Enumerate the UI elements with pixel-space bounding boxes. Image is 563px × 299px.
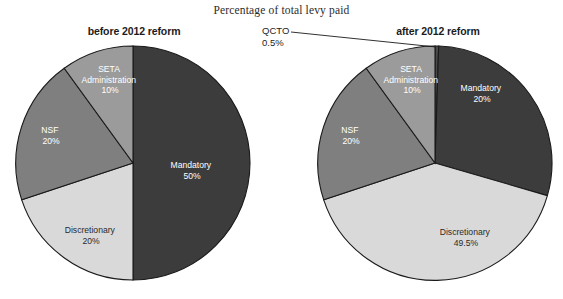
pie-label-discretionary-before-name: Discretionary <box>65 225 116 235</box>
pie-label-seta-before-line1: SETA <box>98 64 120 74</box>
pie-label-nsf-before: NSF 20% <box>41 125 61 146</box>
pie-label-mandatory-after-value: 20% <box>473 94 491 104</box>
pie-charts-svg: Mandatory 50% Discretionary 20% NSF 20% … <box>0 0 563 299</box>
pie-label-discretionary-after-name: Discretionary <box>440 227 491 237</box>
pie-label-seta-after-value: 10% <box>403 85 421 95</box>
pie-label-mandatory-before-value: 50% <box>183 171 201 181</box>
pie-label-discretionary-before-value: 20% <box>82 236 100 246</box>
pie-label-seta-after-line2: Administration <box>384 75 439 85</box>
pie-label-seta-before-line2: Administration <box>82 75 137 85</box>
pie-label-mandatory-after-name: Mandatory <box>461 83 502 93</box>
pie-label-discretionary-after-value: 49.5% <box>454 238 479 248</box>
pie-label-seta-before-value: 10% <box>101 85 119 95</box>
pie-label-nsf-after: NSF 20% <box>341 125 361 146</box>
pie-chart-before-2012-reform: Mandatory 50% Discretionary 20% NSF 20% … <box>16 46 250 280</box>
pie-label-nsf-after-value: 20% <box>342 136 360 146</box>
pie-label-nsf-before-name: NSF <box>41 125 58 135</box>
pie-label-mandatory-before-name: Mandatory <box>171 160 212 170</box>
pie-label-seta-after-line1: SETA <box>400 64 422 74</box>
pie-label-nsf-before-value: 20% <box>42 136 60 146</box>
pie-chart-after-2012-reform: Mandatory 20% Discretionary 49.5% NSF 20… <box>291 32 552 280</box>
figure-container: Percentage of total levy paid before 201… <box>0 0 563 299</box>
qcto-leader-line <box>291 32 436 47</box>
pie-label-nsf-after-name: NSF <box>341 125 358 135</box>
